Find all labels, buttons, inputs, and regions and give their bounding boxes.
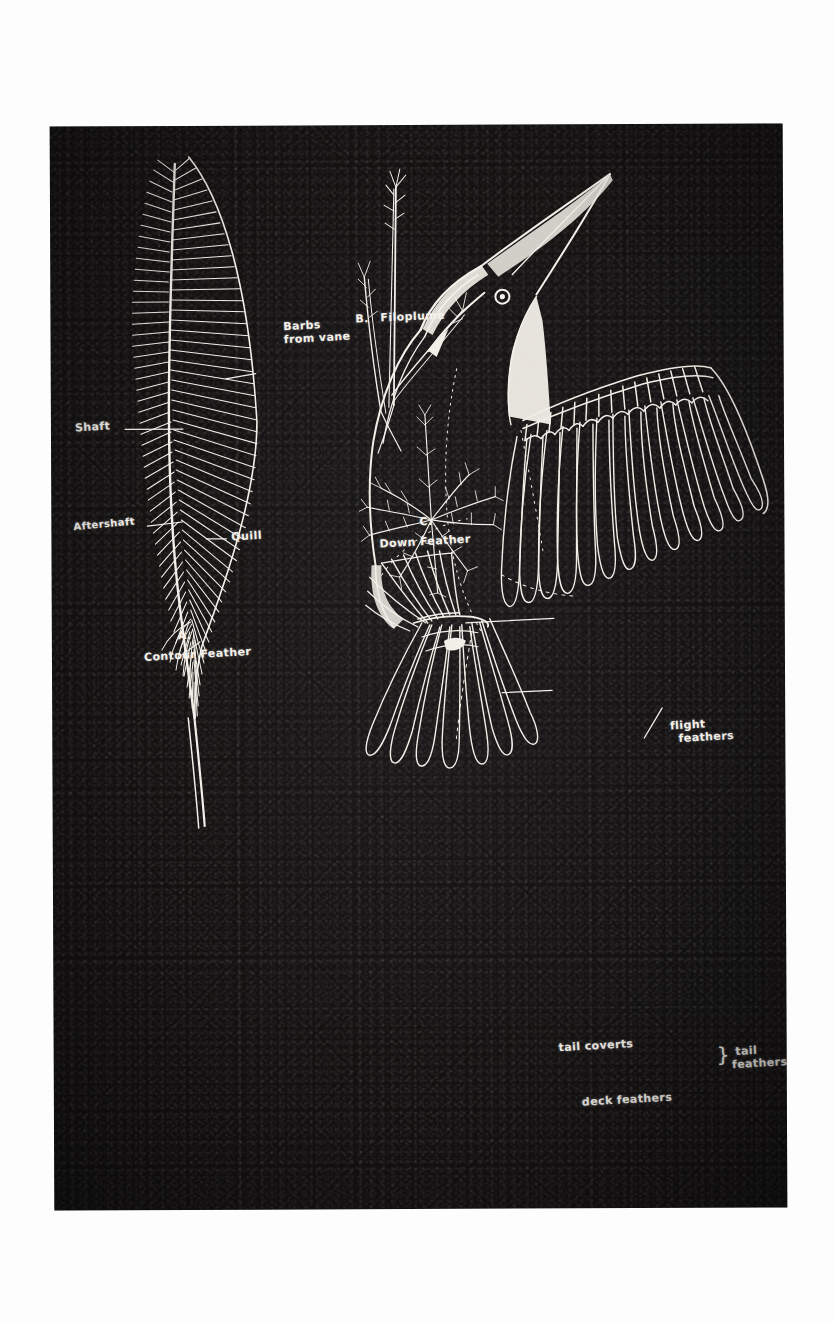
eye-pupil xyxy=(500,294,505,299)
beak-upper-edge xyxy=(480,174,610,267)
caption-b-name: Filoplume xyxy=(380,310,445,325)
scanned-page: Barbs from vane Shaft Aftershaft Quill A… xyxy=(0,0,834,1324)
wing-flight-feathers xyxy=(501,395,763,606)
body-contour-dots xyxy=(445,369,482,633)
label-quill: Quill xyxy=(231,530,262,544)
filoplume-base-left xyxy=(381,411,401,451)
label-flight-feathers: flight feathers xyxy=(670,717,735,746)
feather-quill-shaft xyxy=(194,716,204,826)
beak-upper-fill xyxy=(487,174,613,277)
head-crown-fill xyxy=(422,265,488,335)
label-barbs: Barbs from vane xyxy=(283,318,351,347)
filoplume-shaft-left xyxy=(364,277,381,411)
throat-patch xyxy=(507,296,551,424)
neck-back xyxy=(369,330,422,565)
leader-deck-feathers xyxy=(502,690,552,692)
label-tail-feathers: tail feathers xyxy=(735,1043,787,1071)
bird-drawing xyxy=(364,173,769,768)
leader-barbs xyxy=(226,374,256,379)
caption-c-letter: C. xyxy=(419,516,433,529)
contour-feather-drawing xyxy=(124,157,259,829)
blackboard-plate: Barbs from vane Shaft Aftershaft Quill A… xyxy=(50,123,788,1210)
tail-feathers-bracket-icon: } xyxy=(717,1044,730,1067)
illustration-canvas xyxy=(50,123,788,1210)
caption-b-letter: B. xyxy=(355,313,369,326)
leader-flight-feathers xyxy=(644,708,662,738)
caption-a-letter: A. xyxy=(178,630,192,643)
label-shaft: Shaft xyxy=(75,420,111,435)
